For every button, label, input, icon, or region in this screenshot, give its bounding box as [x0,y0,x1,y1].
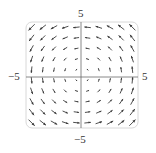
x-max-label: 5 [142,71,148,82]
y-min-label: −5 [74,134,86,145]
x-min-label: −5 [8,71,20,82]
y-max-label: 5 [78,8,84,19]
vector-field-plot [0,0,156,153]
